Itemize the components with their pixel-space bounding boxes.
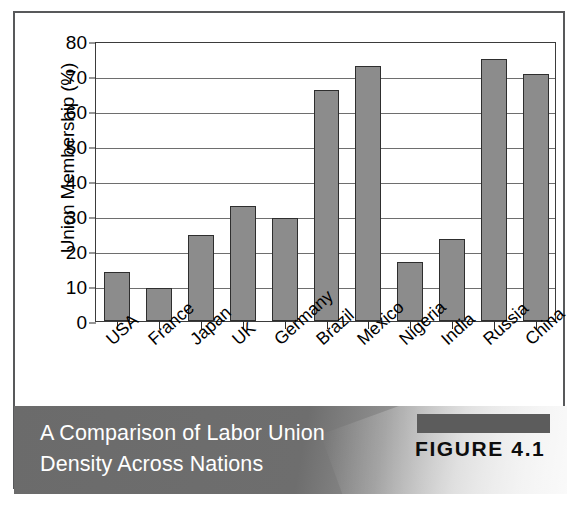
y-tick-label: 60 (66, 102, 87, 124)
y-tick-label: 40 (66, 172, 87, 194)
plot-frame: 01020304050607080 (95, 42, 556, 322)
figure-number-accent-bar (417, 414, 550, 433)
y-tick-label: 30 (66, 207, 87, 229)
y-tick-label: 70 (66, 67, 87, 89)
figure-number-label: FIGURE 4.1 (415, 437, 555, 461)
y-tick-mark (89, 78, 96, 79)
y-tick-mark (89, 113, 96, 114)
y-tick-label: 20 (66, 242, 87, 264)
y-tick-label: 80 (66, 32, 87, 54)
y-tick-label: 50 (66, 137, 87, 159)
y-tick-mark (89, 183, 96, 184)
x-axis-labels-group: USAFranceJapanUKGermanyBrazilMexicoNiger… (95, 322, 556, 414)
figure-caption-text: A Comparison of Labor Union Density Acro… (40, 418, 370, 480)
x-axis-label-uk: UK (228, 318, 260, 350)
y-tick-label: 10 (66, 277, 87, 299)
y-tick-label: 0 (76, 312, 87, 334)
figure-caption-bar: A Comparison of Labor Union Density Acro… (14, 406, 567, 494)
figure-container: Union Membership (%) 01020304050607080 U… (0, 0, 580, 507)
y-tick-mark (89, 218, 96, 219)
y-tick-mark (89, 43, 96, 44)
x-axis-ticks-group (96, 43, 555, 321)
y-tick-mark (89, 253, 96, 254)
chart-area: Union Membership (%) 01020304050607080 U… (15, 13, 567, 411)
y-tick-mark (89, 288, 96, 289)
caption-line-1: A Comparison of Labor Union (40, 418, 370, 449)
y-tick-mark (89, 148, 96, 149)
caption-line-2: Density Across Nations (40, 449, 370, 480)
